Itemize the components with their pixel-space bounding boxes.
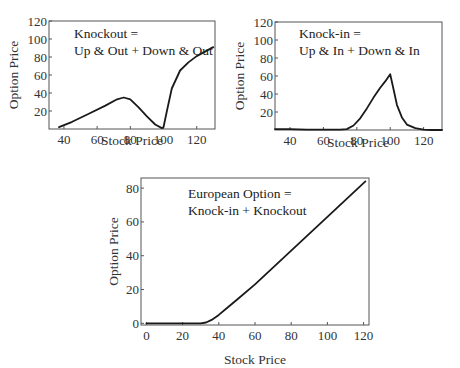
x-tick-label: 0 xyxy=(143,328,150,343)
x-tick-label: 120 xyxy=(354,328,374,343)
y-tick-label: 60 xyxy=(126,214,139,229)
y-tick-label: 60 xyxy=(34,68,47,83)
y-tick-label: 40 xyxy=(260,87,273,102)
x-tick-label: 120 xyxy=(414,133,434,148)
y-tick-label: 100 xyxy=(254,33,274,48)
y-tick-label: 40 xyxy=(126,248,139,263)
x-axis-label: Stock Price xyxy=(327,135,389,150)
y-tick-label: 20 xyxy=(126,282,139,297)
y-tick-label: 80 xyxy=(34,50,47,65)
knockin-plot: 40608010012020406080100120Knock-in =Up &… xyxy=(230,0,460,150)
y-tick-label: 0 xyxy=(133,316,140,331)
x-tick-label: 20 xyxy=(176,328,189,343)
chart-annotation: Knock-in + Knockout xyxy=(188,203,307,218)
y-tick-label: 20 xyxy=(34,104,47,119)
x-tick-label: 40 xyxy=(212,328,225,343)
y-tick-label: 40 xyxy=(34,86,47,101)
y-tick-label: 20 xyxy=(260,105,273,120)
knockout-chart: 40608010012020406080100120Knockout =Up &… xyxy=(0,0,230,150)
chart-annotation: Knock-in = xyxy=(299,26,361,41)
x-tick-label: 40 xyxy=(284,133,297,148)
y-tick-label: 80 xyxy=(126,181,139,196)
european-option-plot: 020406080100120020406080European Option … xyxy=(100,160,400,368)
x-tick-label: 100 xyxy=(318,328,338,343)
x-axis-label: Stock Price xyxy=(101,133,163,148)
y-tick-label: 80 xyxy=(260,51,273,66)
x-tick-label: 80 xyxy=(285,328,298,343)
option-price-curve xyxy=(59,47,213,128)
chart-annotation: European Option = xyxy=(188,186,292,201)
knockin-chart: 40608010012020406080100120Knock-in =Up &… xyxy=(230,0,460,150)
y-axis-label: Option Price xyxy=(106,217,121,286)
x-tick-label: 120 xyxy=(187,132,207,147)
x-tick-label: 40 xyxy=(57,132,70,147)
y-axis-label: Option Price xyxy=(232,42,247,111)
x-axis-label: Stock Price xyxy=(224,352,286,367)
option-price-curve xyxy=(275,74,442,130)
y-tick-label: 120 xyxy=(254,15,274,30)
x-tick-label: 60 xyxy=(249,328,262,343)
y-tick-label: 60 xyxy=(260,69,273,84)
y-tick-label: 100 xyxy=(28,32,48,47)
chart-annotation: Up & Out + Down & Out xyxy=(74,43,213,58)
y-tick-label: 120 xyxy=(28,14,48,29)
chart-annotation: Knockout = xyxy=(74,26,138,41)
y-axis-label: Option Price xyxy=(6,41,21,110)
chart-annotation: Up & In + Down & In xyxy=(299,43,420,58)
european-option-chart: 020406080100120020406080European Option … xyxy=(100,160,400,368)
knockout-plot: 40608010012020406080100120Knockout =Up &… xyxy=(0,0,230,150)
